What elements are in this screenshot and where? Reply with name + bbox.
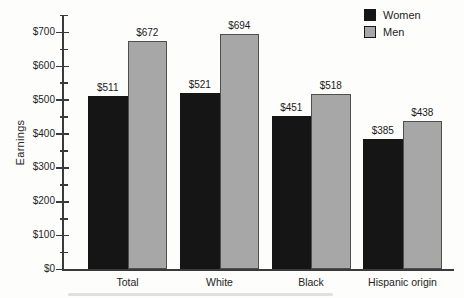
major-tick-0 [56, 269, 69, 271]
y-tick-label-100: $100 [8, 229, 55, 240]
y-tick-label-200: $200 [8, 195, 55, 206]
bar-women-total [88, 96, 128, 269]
value-label-men-black: $518 [309, 80, 353, 91]
minor-tick-450 [60, 116, 68, 118]
minor-tick-650 [60, 49, 68, 51]
major-tick-700 [56, 32, 69, 34]
major-tick-300 [56, 167, 69, 169]
legend-label-women: Women [383, 9, 421, 21]
bar-men-total [128, 41, 168, 269]
value-label-women-black: $451 [269, 102, 313, 113]
legend-item-women: Women [364, 9, 421, 21]
minor-tick-150 [60, 218, 68, 220]
major-tick-100 [56, 235, 69, 237]
major-tick-400 [56, 133, 69, 135]
category-label-total: Total [80, 276, 176, 288]
minor-tick-750 [60, 15, 68, 17]
legend: Women Men [364, 9, 421, 38]
scan-artifact [68, 293, 333, 296]
bar-women-white [180, 93, 220, 269]
bar-women-hispanic-origin [363, 139, 403, 269]
value-label-men-white: $694 [217, 20, 261, 31]
minor-tick-550 [60, 82, 68, 84]
bar-women-black [272, 116, 312, 269]
y-tick-label-600: $600 [8, 60, 55, 71]
major-tick-500 [56, 99, 69, 101]
bar-men-white [220, 34, 260, 269]
value-label-women-white: $521 [178, 79, 222, 90]
y-axis-title: Earnings [14, 91, 27, 195]
bar-men-black [311, 94, 351, 269]
value-label-men-total: $672 [125, 27, 169, 38]
y-tick-label-700: $700 [8, 26, 55, 37]
y-tick-label-400: $400 [8, 128, 55, 139]
legend-swatch-women [364, 9, 376, 21]
value-label-men-hispanic-origin: $438 [400, 107, 444, 118]
bar-men-hispanic-origin [403, 121, 443, 269]
minor-tick-50 [60, 252, 68, 254]
legend-item-men: Men [364, 26, 421, 38]
earnings-bar-chart-figure: Earnings Women Men $0$100$200$300$400$50… [0, 0, 464, 298]
x-axis-line [62, 269, 454, 271]
y-axis-line [62, 15, 64, 271]
y-tick-label-300: $300 [8, 161, 55, 172]
legend-label-men: Men [383, 26, 404, 38]
category-label-white: White [172, 276, 268, 288]
major-tick-200 [56, 201, 69, 203]
major-tick-600 [56, 66, 69, 68]
legend-swatch-men [364, 26, 376, 38]
value-label-women-hispanic-origin: $385 [361, 125, 405, 136]
minor-tick-350 [60, 150, 68, 152]
category-label-hispanic-origin: Hispanic origin [355, 276, 451, 288]
value-label-women-total: $511 [86, 82, 130, 93]
minor-tick-250 [60, 184, 68, 186]
category-label-black: Black [263, 276, 359, 288]
y-tick-label-0: $0 [8, 263, 55, 274]
y-tick-label-500: $500 [8, 94, 55, 105]
